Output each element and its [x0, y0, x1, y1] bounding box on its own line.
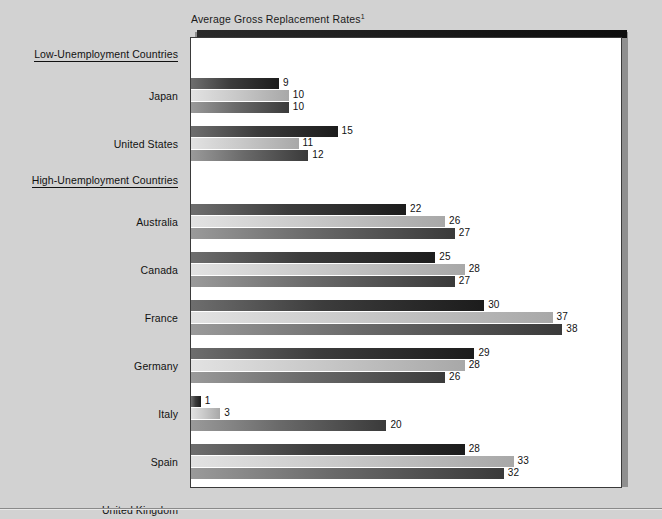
bar-value-label: 12 — [312, 149, 323, 160]
bar-italy-1990[interactable] — [191, 408, 220, 419]
bar-value-label: 38 — [566, 323, 577, 334]
group-heading: High-Unemployment Countries — [32, 174, 178, 188]
bar-value-label: 28 — [469, 443, 480, 454]
bar-japan-1980[interactable] — [191, 78, 279, 89]
category-label-germany: Germany — [134, 360, 178, 372]
bar-germany-1995[interactable] — [191, 372, 445, 383]
bar-japan-1995[interactable] — [191, 102, 289, 113]
bar-australia-1980[interactable] — [191, 204, 406, 215]
bar-italy-1980[interactable] — [191, 396, 201, 407]
bar-united-states-1980[interactable] — [191, 126, 338, 137]
category-label-spain: Spain — [151, 456, 178, 468]
category-label-united-kingdom: United Kingdom — [102, 504, 178, 516]
bar-germany-1990[interactable] — [191, 360, 465, 371]
bar-value-label: 37 — [557, 311, 568, 322]
bar-value-label: 27 — [459, 227, 470, 238]
bar-canada-1980[interactable] — [191, 252, 435, 263]
bar-spain-1995[interactable] — [191, 468, 504, 479]
chart-title-footnote-marker: 1 — [361, 13, 365, 20]
bar-value-label: 10 — [293, 89, 304, 100]
bar-value-label: 20 — [390, 419, 401, 430]
bar-value-label: 10 — [293, 101, 304, 112]
bar-value-label: 30 — [488, 299, 499, 310]
footer-divider-highlight — [0, 509, 662, 510]
bar-value-label: 28 — [469, 359, 480, 370]
bar-spain-1990[interactable] — [191, 456, 514, 467]
category-label-australia: Australia — [136, 216, 178, 228]
figure-container: Average Gross Replacement Rates1 9101015… — [0, 0, 662, 519]
bar-value-label: 28 — [469, 263, 480, 274]
category-label-japan: Japan — [149, 90, 178, 102]
category-label-canada: Canada — [141, 264, 178, 276]
bar-australia-1990[interactable] — [191, 216, 445, 227]
bar-value-label: 1 — [205, 395, 211, 406]
chart-title: Average Gross Replacement Rates1 — [191, 13, 365, 25]
group-heading: Low-Unemployment Countries — [34, 48, 178, 62]
bar-value-label: 33 — [518, 455, 529, 466]
category-label-france: France — [145, 312, 178, 324]
bar-united-states-1995[interactable] — [191, 150, 308, 161]
category-label-column: Low-Unemployment CountriesJapanUnited St… — [0, 37, 186, 488]
bar-canada-1990[interactable] — [191, 264, 465, 275]
bar-germany-1980[interactable] — [191, 348, 474, 359]
bar-value-label: 3 — [224, 407, 230, 418]
bar-united-states-1990[interactable] — [191, 138, 299, 149]
bar-japan-1990[interactable] — [191, 90, 289, 101]
bar-france-1995[interactable] — [191, 324, 562, 335]
bar-value-label: 9 — [283, 77, 289, 88]
bar-value-label: 25 — [439, 251, 450, 262]
bar-value-label: 32 — [508, 467, 519, 478]
bar-australia-1995[interactable] — [191, 228, 455, 239]
category-label-italy: Italy — [158, 408, 178, 420]
plot-area: 9101015111222262725282730373829282613202… — [190, 37, 622, 488]
bar-value-label: 26 — [449, 215, 460, 226]
bar-value-label: 27 — [459, 275, 470, 286]
bar-value-label: 22 — [410, 203, 421, 214]
bar-france-1980[interactable] — [191, 300, 484, 311]
bar-italy-1995[interactable] — [191, 420, 386, 431]
bar-france-1990[interactable] — [191, 312, 553, 323]
bar-value-label: 11 — [303, 137, 314, 148]
bar-value-label: 29 — [478, 347, 489, 358]
chart-title-text: Average Gross Replacement Rates — [191, 13, 361, 25]
category-label-united-states: United States — [114, 138, 178, 150]
bar-value-label: 15 — [342, 125, 353, 136]
bar-value-label: 26 — [449, 371, 460, 382]
bar-spain-1980[interactable] — [191, 444, 465, 455]
bar-canada-1995[interactable] — [191, 276, 455, 287]
